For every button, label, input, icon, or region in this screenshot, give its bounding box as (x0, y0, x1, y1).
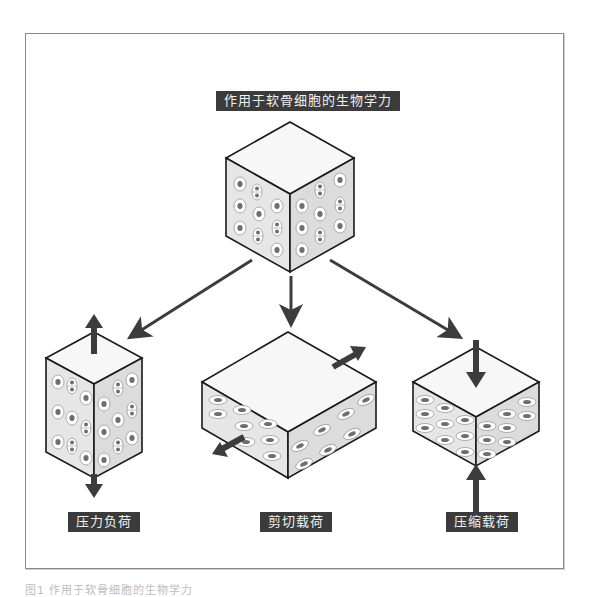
shear-label: 剪切载荷 (260, 512, 332, 532)
title-label: 作用于软骨细胞的生物学力 (216, 91, 400, 111)
up-arrow-icon (466, 464, 486, 480)
compression-cube (413, 340, 539, 514)
up-arrow-icon (85, 314, 103, 328)
connector-arrows (132, 260, 458, 336)
tension-label: 压力负荷 (68, 512, 140, 532)
tension-prism (46, 314, 142, 498)
shear-slab (202, 332, 376, 478)
compression-label: 压缩载荷 (446, 512, 518, 532)
top-cube (226, 122, 354, 272)
arrow-to-compression (330, 260, 458, 336)
arrow-to-tension (132, 260, 252, 336)
down-arrow-icon (85, 484, 103, 498)
figure-caption: 图1 作用于软骨细胞的生物学力 (25, 581, 194, 597)
